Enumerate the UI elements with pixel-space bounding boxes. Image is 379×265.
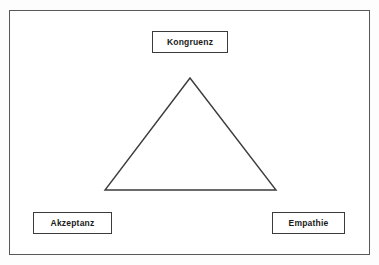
- node-label-akzeptanz: Akzeptanz: [51, 219, 95, 228]
- node-box-akzeptanz[interactable]: Akzeptanz: [33, 212, 112, 234]
- node-label-kongruenz: Kongruenz: [167, 38, 213, 47]
- node-label-empathie: Empathie: [289, 219, 329, 228]
- node-box-kongruenz[interactable]: Kongruenz: [152, 31, 228, 53]
- node-box-empathie[interactable]: Empathie: [272, 212, 345, 234]
- diagram-canvas: Kongruenz Akzeptanz Empathie: [0, 0, 379, 265]
